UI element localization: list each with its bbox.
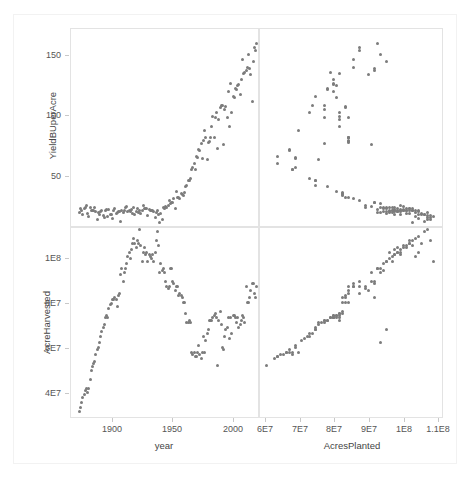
data-point — [417, 217, 420, 220]
data-point — [125, 205, 128, 208]
data-point — [78, 410, 81, 413]
data-point — [227, 90, 230, 93]
data-point — [107, 307, 110, 310]
data-point — [146, 260, 149, 263]
data-point — [379, 211, 382, 214]
data-point — [119, 273, 122, 276]
y-tick-row1-2: 6E7 — [28, 343, 61, 353]
data-point — [206, 158, 209, 161]
data-point — [129, 257, 132, 260]
data-point — [132, 206, 135, 209]
data-point — [326, 185, 329, 188]
x-tick-col1-2: 8E7 — [326, 424, 342, 434]
data-point — [189, 177, 192, 180]
data-point — [162, 267, 165, 270]
data-point — [207, 328, 210, 331]
data-point — [388, 251, 391, 254]
data-point — [81, 396, 84, 399]
panel-yield-vs-acresplanted[interactable] — [259, 28, 443, 227]
data-point — [100, 209, 103, 212]
panel-matrix — [70, 28, 443, 418]
data-point — [89, 378, 92, 381]
data-point — [408, 212, 411, 215]
data-point — [97, 346, 100, 349]
x-tick-col1-4: 1E8 — [396, 424, 412, 434]
data-point — [237, 83, 240, 86]
data-point — [185, 184, 188, 187]
data-point — [254, 296, 257, 299]
data-point — [81, 213, 84, 216]
data-point — [332, 78, 335, 81]
data-point — [429, 218, 432, 221]
data-point — [170, 267, 173, 270]
data-point — [242, 316, 245, 319]
data-point — [172, 197, 175, 200]
data-point — [347, 141, 350, 144]
data-point — [141, 260, 144, 263]
data-point — [248, 296, 251, 299]
data-point — [291, 168, 294, 171]
data-point — [217, 118, 220, 121]
y-tickmark-row0-2 — [65, 176, 69, 177]
data-point — [240, 319, 243, 322]
data-point — [226, 326, 229, 329]
data-point — [297, 351, 300, 354]
data-point — [197, 344, 200, 347]
data-point — [158, 221, 161, 224]
data-point — [210, 319, 213, 322]
data-point — [352, 285, 355, 288]
data-point — [247, 53, 250, 56]
panel-acreharvested-vs-acresplanted[interactable] — [259, 227, 443, 418]
data-point — [326, 319, 329, 322]
data-point — [326, 88, 329, 91]
data-point — [219, 310, 222, 313]
data-point — [80, 401, 83, 404]
data-point — [204, 339, 207, 342]
data-point — [294, 166, 297, 169]
data-point — [420, 242, 423, 245]
y-tick-row1-3: 4E7 — [28, 388, 61, 398]
y-tickmark-row0-0 — [65, 55, 69, 56]
data-point — [308, 335, 311, 338]
data-point — [323, 116, 326, 119]
data-point — [323, 104, 326, 107]
panel-yield-vs-year[interactable] — [70, 28, 259, 227]
panel-acreharvested-vs-year[interactable] — [70, 227, 259, 418]
data-point — [220, 323, 223, 326]
data-point — [347, 285, 350, 288]
data-point — [133, 242, 136, 245]
data-point — [240, 78, 243, 81]
data-point — [83, 393, 86, 396]
data-point — [255, 42, 258, 45]
data-point — [314, 95, 317, 98]
y-tickmark-row0-1 — [65, 115, 69, 116]
data-point — [208, 140, 211, 143]
data-point — [215, 111, 218, 114]
data-point — [432, 215, 435, 218]
data-point — [385, 260, 388, 263]
data-point — [119, 220, 122, 223]
data-point — [335, 84, 338, 87]
data-point — [154, 216, 157, 219]
data-point — [139, 212, 142, 215]
data-point — [249, 289, 252, 292]
data-point — [230, 332, 233, 335]
data-point — [217, 319, 220, 322]
data-point — [370, 205, 373, 208]
data-point — [367, 73, 370, 76]
data-point — [411, 221, 414, 224]
data-point — [87, 387, 90, 390]
data-point — [417, 235, 420, 238]
data-point — [317, 158, 320, 161]
x-axis-title-col1: AcresPlanted — [324, 440, 381, 451]
data-point — [379, 341, 382, 344]
data-point — [183, 191, 186, 194]
data-point — [393, 213, 396, 216]
data-point — [133, 213, 136, 216]
data-point — [385, 328, 388, 331]
data-point — [174, 207, 177, 210]
data-point — [156, 209, 159, 212]
y-tickmark-row1-1 — [65, 303, 69, 304]
data-point — [200, 357, 203, 360]
data-point — [243, 321, 246, 324]
